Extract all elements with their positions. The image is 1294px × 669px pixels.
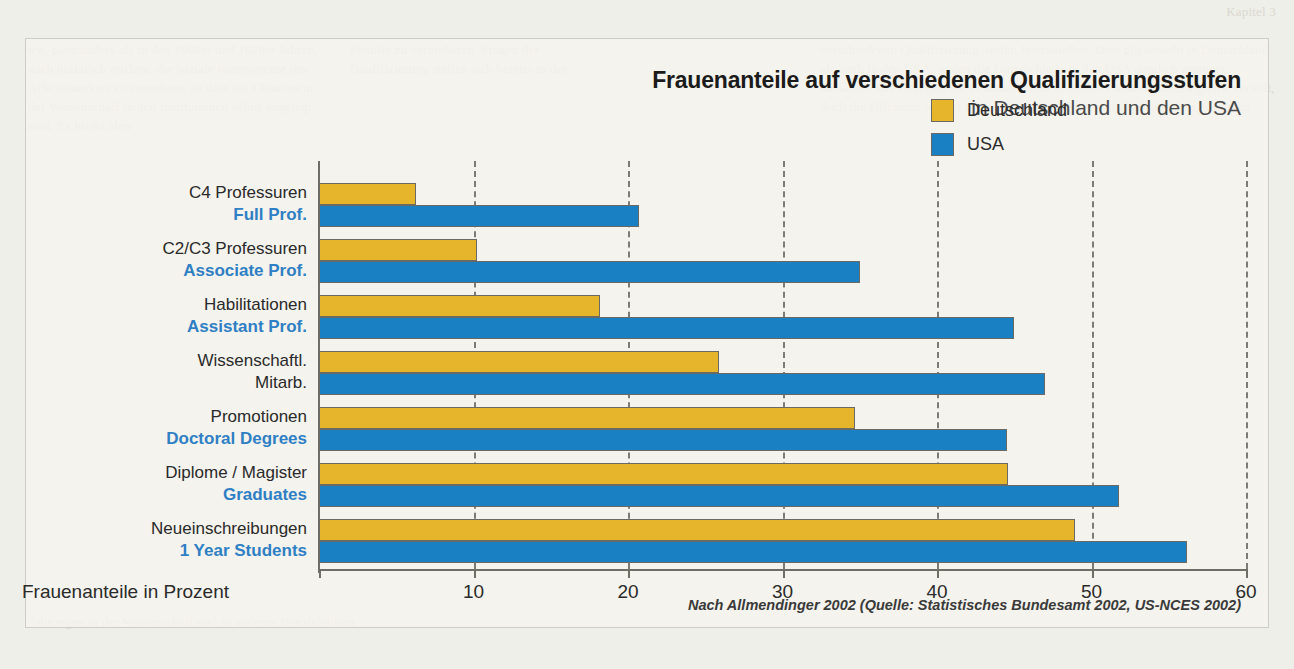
category-label-english: 1 Year Students bbox=[0, 540, 307, 562]
bar-usa[interactable] bbox=[319, 429, 1007, 451]
category-label-german: Habilitationen bbox=[0, 294, 307, 316]
category-label: C2/C3 ProfessurenAssociate Prof. bbox=[0, 238, 307, 282]
gridline-60 bbox=[1246, 161, 1248, 569]
x-tick-label-20: 20 bbox=[617, 581, 638, 603]
x-tick-50 bbox=[1092, 569, 1094, 578]
bar-group: Diplome / MagisterGraduates bbox=[319, 463, 1246, 509]
bar-deutschland[interactable] bbox=[319, 463, 1008, 485]
category-label-german: C2/C3 Professuren bbox=[0, 238, 307, 260]
plot-area: Frauenanteile in Prozent 102030405060C4 … bbox=[319, 169, 1246, 569]
bar-usa[interactable] bbox=[319, 205, 639, 227]
category-label-english: Full Prof. bbox=[0, 204, 307, 226]
x-tick-0 bbox=[319, 569, 321, 578]
category-label-english: Doctoral Degrees bbox=[0, 428, 307, 450]
bar-usa[interactable] bbox=[319, 261, 860, 283]
category-label-english: Associate Prof. bbox=[0, 260, 307, 282]
bar-deutschland[interactable] bbox=[319, 519, 1075, 541]
legend-swatch-deutschland bbox=[931, 99, 954, 122]
bar-usa[interactable] bbox=[319, 317, 1014, 339]
category-label-german: Wissenschaftl. bbox=[0, 350, 307, 372]
category-label-german: C4 Professuren bbox=[0, 182, 307, 204]
background-page-header: Kapitel 3 bbox=[1016, 2, 1276, 21]
bar-group: Wissenschaftl.Mitarb. bbox=[319, 351, 1246, 397]
bar-deutschland[interactable] bbox=[319, 183, 416, 205]
chart-panel: Frauenanteile auf verschiedenen Qualifiz… bbox=[25, 38, 1269, 628]
category-label: Diplome / MagisterGraduates bbox=[0, 462, 307, 506]
bar-group: C2/C3 ProfessurenAssociate Prof. bbox=[319, 239, 1246, 285]
legend-label-usa: USA bbox=[967, 134, 1004, 155]
legend-item-deutschland[interactable]: Deutschland bbox=[931, 99, 1067, 122]
category-label-german: Promotionen bbox=[0, 406, 307, 428]
x-tick-40 bbox=[937, 569, 939, 578]
bar-deutschland[interactable] bbox=[319, 295, 600, 317]
category-label-english: Assistant Prof. bbox=[0, 316, 307, 338]
category-label: HabilitationenAssistant Prof. bbox=[0, 294, 307, 338]
bar-deutschland[interactable] bbox=[319, 351, 719, 373]
category-label-english: Mitarb. bbox=[0, 372, 307, 394]
x-tick-20 bbox=[628, 569, 630, 578]
x-tick-60 bbox=[1246, 569, 1248, 578]
category-label-german: Neueinschreibungen bbox=[0, 518, 307, 540]
legend-label-deutschland: Deutschland bbox=[967, 100, 1067, 121]
chart-title: Frauenanteile auf verschiedenen Qualifiz… bbox=[652, 67, 1241, 94]
category-label: C4 ProfessurenFull Prof. bbox=[0, 182, 307, 226]
x-tick-10 bbox=[474, 569, 476, 578]
legend-item-usa[interactable]: USA bbox=[931, 133, 1067, 156]
x-axis-title: Frauenanteile in Prozent bbox=[22, 581, 229, 603]
chart-source-note: Nach Allmendinger 2002 (Quelle: Statisti… bbox=[688, 597, 1241, 613]
category-label-german: Diplome / Magister bbox=[0, 462, 307, 484]
bar-group: HabilitationenAssistant Prof. bbox=[319, 295, 1246, 341]
category-label-english: Graduates bbox=[0, 484, 307, 506]
category-label: Wissenschaftl.Mitarb. bbox=[0, 350, 307, 394]
x-tick-label-10: 10 bbox=[463, 581, 484, 603]
bar-deutschland[interactable] bbox=[319, 239, 477, 261]
x-tick-30 bbox=[783, 569, 785, 578]
bar-group: Neueinschreibungen1 Year Students bbox=[319, 519, 1246, 565]
bar-usa[interactable] bbox=[319, 485, 1119, 507]
category-label: PromotionenDoctoral Degrees bbox=[0, 406, 307, 450]
category-label: Neueinschreibungen1 Year Students bbox=[0, 518, 307, 562]
bar-usa[interactable] bbox=[319, 541, 1187, 563]
bar-group: PromotionenDoctoral Degrees bbox=[319, 407, 1246, 453]
bar-group: C4 ProfessurenFull Prof. bbox=[319, 183, 1246, 229]
bar-usa[interactable] bbox=[319, 373, 1045, 395]
chart-legend: Deutschland USA bbox=[931, 99, 1067, 167]
bar-deutschland[interactable] bbox=[319, 407, 855, 429]
legend-swatch-usa bbox=[931, 133, 954, 156]
